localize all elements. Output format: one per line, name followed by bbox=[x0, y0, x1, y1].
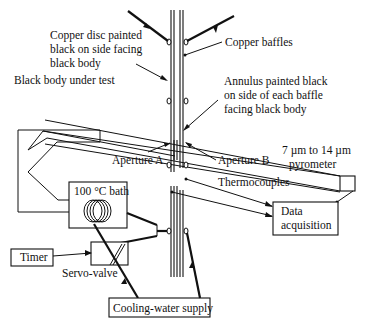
experimental-setup-diagram: Copper disc painted black on side facing… bbox=[0, 0, 366, 327]
arrow-aperture-a bbox=[164, 143, 171, 147]
label-pyrometer-1: 7 µm to 14 µm bbox=[282, 144, 351, 157]
label-copper-disc-2: black on side facing bbox=[50, 43, 143, 56]
copper-baffles bbox=[171, 10, 183, 277]
label-bath: 100 °C bath bbox=[74, 185, 129, 197]
label-cooling-water: Cooling-water supply bbox=[113, 302, 213, 315]
label-timer: Timer bbox=[20, 251, 48, 263]
beam-apex bbox=[28, 131, 47, 150]
bath-pipe-upper bbox=[127, 213, 157, 225]
pyrometer-box bbox=[340, 176, 355, 191]
label-black-body: Black body under test bbox=[14, 74, 115, 87]
arrow-copper-disc bbox=[160, 75, 168, 81]
arrow-thermocouple-1 bbox=[265, 201, 273, 207]
label-aperture-b: Aperture B bbox=[218, 154, 270, 167]
arrow-thermocouple-2 bbox=[265, 212, 273, 217]
beam-upper-2 bbox=[43, 131, 175, 156]
servo-valve-box bbox=[91, 242, 128, 265]
pointer-copper-baffles bbox=[185, 42, 222, 55]
thermocouple-lead-2 bbox=[172, 192, 272, 216]
pyrometer-lead bbox=[337, 191, 353, 202]
label-annulus-1: Annulus painted black bbox=[224, 75, 328, 88]
label-data-acquisition-1: Data bbox=[281, 205, 303, 217]
label-aperture-a: Aperture A bbox=[112, 154, 164, 167]
label-copper-disc-3: black body bbox=[50, 57, 101, 70]
label-copper-baffles: Copper baffles bbox=[225, 36, 293, 49]
label-data-acquisition-2: acquisition bbox=[281, 219, 332, 232]
label-annulus-3: facing black body bbox=[224, 103, 307, 116]
label-pyrometer-2: pyrometer bbox=[289, 158, 336, 171]
label-servo-valve: Servo-valve bbox=[62, 267, 118, 279]
label-thermocouples: Thermocouples bbox=[218, 176, 290, 189]
label-copper-disc-1: Copper disc painted bbox=[50, 29, 142, 42]
label-annulus-2: on side of each baffle bbox=[224, 89, 323, 101]
pointer-annulus bbox=[184, 100, 218, 130]
